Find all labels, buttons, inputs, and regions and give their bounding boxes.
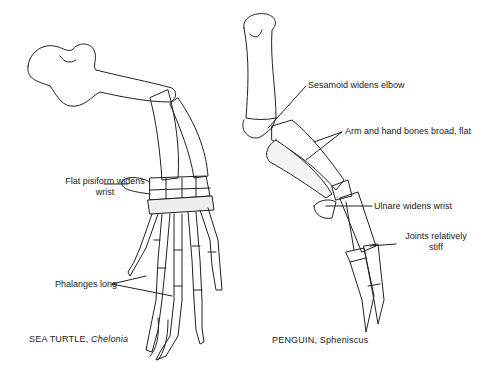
label-text: Ulnare widens wrist [374, 201, 452, 211]
label-line: Flat pisiform widens [60, 176, 150, 187]
label-ulnare: Ulnare widens wrist [374, 201, 452, 212]
label-line: wrist [60, 187, 150, 198]
label-arm-hand-bones: Arm and hand bones broad, flat [345, 126, 471, 137]
label-text: Sesamoid widens elbow [308, 80, 405, 90]
penguin-flipper-skeleton [243, 14, 384, 332]
caption-common-name: PENGUIN, [272, 335, 317, 345]
label-phalanges-long: Phalanges long [55, 279, 117, 290]
label-text: Arm and hand bones broad, flat [345, 126, 471, 136]
label-text: Phalanges long [55, 279, 117, 289]
sea-turtle-flipper-skeleton [28, 44, 222, 360]
caption-penguin: PENGUIN, Spheniscus [272, 335, 368, 345]
caption-genus: Chelonia [91, 334, 128, 344]
label-flat-pisiform: Flat pisiform widens wrist [60, 176, 150, 198]
label-line: stiff [396, 242, 476, 253]
label-joints-stiff: Joints relatively stiff [396, 231, 476, 253]
caption-common-name: SEA TURTLE, [29, 334, 88, 344]
caption-genus: Spheniscus [320, 335, 369, 345]
label-line: Joints relatively [396, 231, 476, 242]
label-sesamoid: Sesamoid widens elbow [308, 80, 405, 91]
caption-sea-turtle: SEA TURTLE, Chelonia [29, 334, 128, 344]
